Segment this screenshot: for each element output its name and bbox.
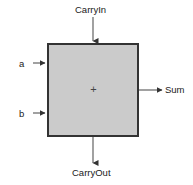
- port-label-a: a: [19, 59, 24, 69]
- port-label-carryin: CarryIn: [75, 5, 106, 15]
- adder-diagram-canvas: + CarryIn a b Sum CarryOut: [0, 0, 193, 185]
- port-label-sum: Sum: [165, 85, 185, 95]
- port-label-b: b: [19, 109, 24, 119]
- plus-symbol: +: [88, 84, 99, 95]
- port-label-carryout: CarryOut: [72, 168, 111, 178]
